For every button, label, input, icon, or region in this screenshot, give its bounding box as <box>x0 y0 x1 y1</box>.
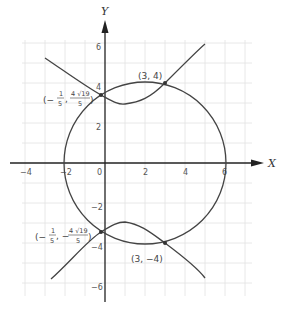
y-arrow-icon <box>102 20 109 33</box>
x-arrow-icon <box>251 160 264 167</box>
label-lower-left-intersection: (− 1 5 , − 4 √19 5 ) <box>35 227 92 245</box>
svg-text:6: 6 <box>96 43 101 52</box>
x-tick-labels: −4 −2 0 2 4 6 <box>20 168 227 177</box>
y-axis-label: Y <box>101 5 110 18</box>
svg-text:): ) <box>90 95 94 105</box>
svg-text:4: 4 <box>183 168 188 177</box>
svg-text:2: 2 <box>143 168 148 177</box>
intersection-point <box>99 93 103 97</box>
svg-text:−2: −2 <box>91 203 103 212</box>
svg-text:−6: −6 <box>91 283 103 292</box>
svg-text:−4: −4 <box>20 168 32 177</box>
svg-text:−4: −4 <box>91 243 103 252</box>
svg-text:(−: (− <box>43 95 54 105</box>
svg-text:5: 5 <box>50 237 54 245</box>
svg-text:1: 1 <box>59 90 63 98</box>
graph: X Y −4 −2 0 2 4 6 6 4 2 −2 −4 −6 (3, 4) … <box>0 0 290 311</box>
svg-text:,: , <box>65 94 68 104</box>
svg-text:−2: −2 <box>60 168 72 177</box>
svg-text:4: 4 <box>96 83 101 92</box>
svg-text:1: 1 <box>51 227 55 235</box>
svg-text:5: 5 <box>58 100 62 108</box>
svg-text:5: 5 <box>78 100 82 108</box>
svg-text:): ) <box>88 232 92 242</box>
intersection-point <box>163 241 167 245</box>
svg-text:4 √19: 4 √19 <box>69 227 88 235</box>
y-axis <box>102 20 109 302</box>
svg-text:2: 2 <box>96 123 101 132</box>
svg-text:, −: , − <box>56 231 69 241</box>
intersection-point <box>163 81 167 85</box>
x-axis-label: X <box>267 157 277 170</box>
label-upper-left-intersection: (− 1 5 , 4 √19 5 ) <box>43 90 94 108</box>
label-3-4: (3, 4) <box>138 71 162 81</box>
svg-text:0: 0 <box>97 168 102 177</box>
svg-text:(−: (− <box>35 232 46 242</box>
label-3-minus4: (3, −4) <box>131 254 163 264</box>
intersection-point <box>99 230 103 234</box>
svg-text:5: 5 <box>76 237 80 245</box>
svg-text:4 √19: 4 √19 <box>71 90 90 98</box>
